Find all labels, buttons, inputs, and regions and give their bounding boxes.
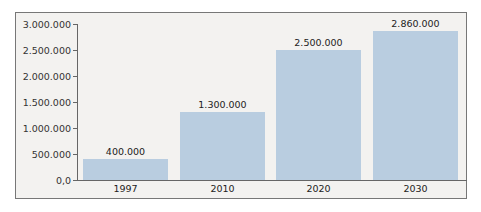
y-tick-label: 500.000	[32, 149, 71, 160]
x-tick-label: 2030	[373, 183, 458, 194]
bar-2020	[276, 50, 361, 180]
value-label: 400.000	[83, 146, 168, 157]
y-tick	[73, 102, 77, 103]
y-tick-label: 1.000.000	[23, 123, 71, 134]
y-axis	[77, 24, 78, 181]
x-axis	[77, 180, 467, 181]
y-tick	[73, 50, 77, 51]
y-tick	[73, 154, 77, 155]
bar-2030	[373, 31, 458, 180]
y-tick-label: 0,0	[56, 175, 71, 186]
y-tick-label: 3.000.000	[23, 19, 71, 30]
y-tick-label: 2.000.000	[23, 71, 71, 82]
y-tick	[73, 24, 77, 25]
value-label: 2.860.000	[373, 18, 458, 29]
y-tick	[73, 128, 77, 129]
x-tick-label: 2020	[276, 183, 361, 194]
y-tick-label: 2.500.000	[23, 45, 71, 56]
y-tick	[73, 76, 77, 77]
value-label: 2.500.000	[276, 37, 361, 48]
x-tick-label: 1997	[83, 183, 168, 194]
y-tick-label: 1.500.000	[23, 97, 71, 108]
x-tick-label: 2010	[180, 183, 265, 194]
value-label: 1.300.000	[180, 99, 265, 110]
bar-2010	[180, 112, 265, 180]
y-tick	[73, 180, 77, 181]
bar-1997	[83, 159, 168, 180]
